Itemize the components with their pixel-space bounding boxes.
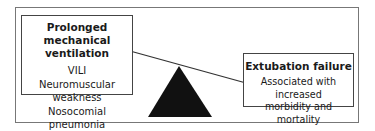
- left-box-item-neuromuscular-weakness: Neuromuscular weakness: [22, 78, 132, 105]
- left-box-item-nosocomial-pneumonia: Nosocomial pneumonia: [22, 105, 132, 131]
- left-box-item-vili: VILI: [22, 64, 132, 78]
- right-box-title: Extubation failure: [244, 60, 353, 73]
- balance-beam: [130, 51, 246, 83]
- left-box-prolonged-ventilation: Prolonged mechanical ventilation VILI Ne…: [21, 15, 133, 95]
- fulcrum-triangle: [148, 66, 212, 117]
- left-box-title-line2: ventilation: [22, 47, 132, 60]
- right-box-extubation-failure: Extubation failure Associated with incre…: [243, 53, 354, 107]
- right-box-description-line2: morbidity and mortality: [244, 101, 353, 126]
- left-box-title-line1: Prolonged mechanical: [22, 21, 132, 47]
- right-box-description-line1: Associated with increased: [244, 76, 353, 101]
